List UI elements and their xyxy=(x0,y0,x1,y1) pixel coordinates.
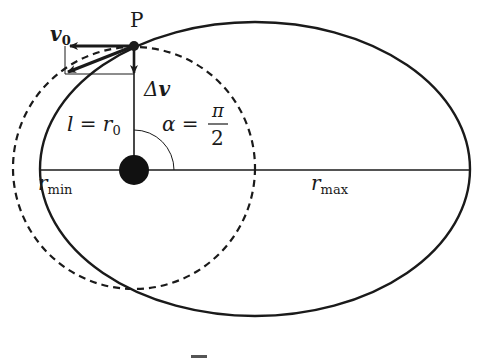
resultant-velocity-arrow xyxy=(68,46,134,72)
svg-text:α =: α = xyxy=(162,112,199,136)
central-body xyxy=(119,155,149,185)
label-alpha: α = π 2 xyxy=(162,100,228,150)
label-p: P xyxy=(130,8,143,32)
label-delta-v: Δv xyxy=(143,77,170,101)
point-p-dot xyxy=(129,41,139,51)
label-r-min: rmin xyxy=(38,171,73,197)
label-r-max: rmax xyxy=(311,171,349,197)
label-l-equals-r0: l = r0 xyxy=(67,112,121,138)
diagram-canvas: P v0 Δv l = r0 α = π 2 rmin rmax xyxy=(0,0,482,358)
label-v0: v0 xyxy=(50,22,71,48)
svg-text:2: 2 xyxy=(211,126,224,150)
svg-text:π: π xyxy=(211,100,225,121)
orbit-diagram: P v0 Δv l = r0 α = π 2 rmin rmax xyxy=(0,0,482,358)
